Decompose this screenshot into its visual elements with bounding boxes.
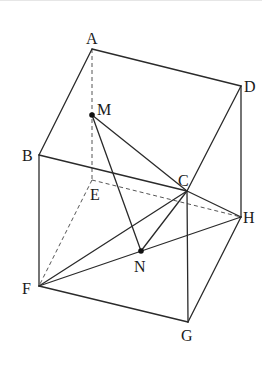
label-E: E [90,186,100,203]
point-M [89,112,95,118]
label-G: G [181,327,193,344]
label-B: B [22,147,33,164]
segment-CH [187,191,241,217]
label-A: A [86,30,98,47]
cube-diagram: A B C D E F G H M N [0,0,279,365]
point-N [138,248,144,254]
edge-AD [92,49,241,86]
edge-AB [39,49,92,155]
edge-CG [187,191,188,322]
label-M: M [97,101,111,118]
segment-NC [141,191,187,251]
label-H: H [243,209,255,226]
label-N: N [134,258,146,275]
label-C: C [178,172,189,189]
label-D: D [244,78,256,95]
label-F: F [22,280,31,297]
edge-FG [39,286,188,322]
segment-CF [39,191,187,286]
edge-CD [187,86,241,191]
